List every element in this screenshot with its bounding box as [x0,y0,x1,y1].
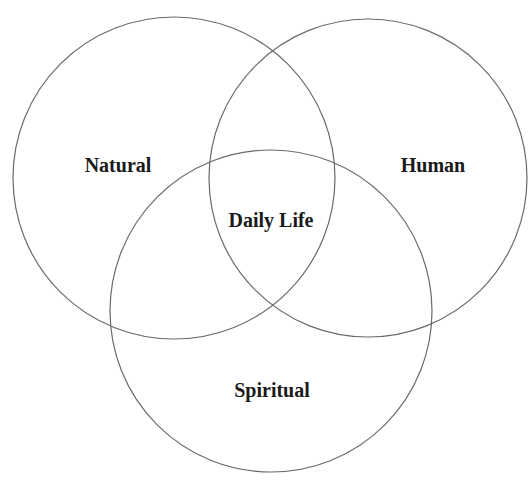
spiritual-label: Spiritual [234,379,310,402]
venn-diagram: Natural Human Spiritual Daily Life [0,0,531,482]
human-label: Human [401,154,465,176]
human-circle [209,19,527,337]
natural-circle [13,17,335,339]
spiritual-circle [110,150,432,472]
natural-label: Natural [85,154,152,176]
daily-life-label: Daily Life [229,209,314,232]
